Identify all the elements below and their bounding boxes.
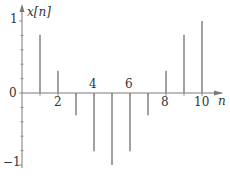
x-tick-label-2: 2 — [54, 96, 62, 108]
y-tick-label-0: 0 — [9, 87, 17, 99]
x-axis-label: n — [218, 95, 226, 107]
axes — [19, 4, 223, 168]
x-tick-label-4: 4 — [89, 78, 97, 90]
y-axis-label: x[n] — [27, 6, 51, 18]
x-tick-label-10: 10 — [194, 96, 209, 108]
y-axis-arrow-icon — [20, 4, 25, 12]
y-tick-label-neg1: −1 — [3, 156, 21, 168]
y-tick-label-1: 1 — [10, 13, 18, 25]
x-tick-label-8: 8 — [161, 96, 169, 108]
stem-plot — [0, 0, 230, 178]
x-tick-label-6: 6 — [125, 78, 133, 90]
